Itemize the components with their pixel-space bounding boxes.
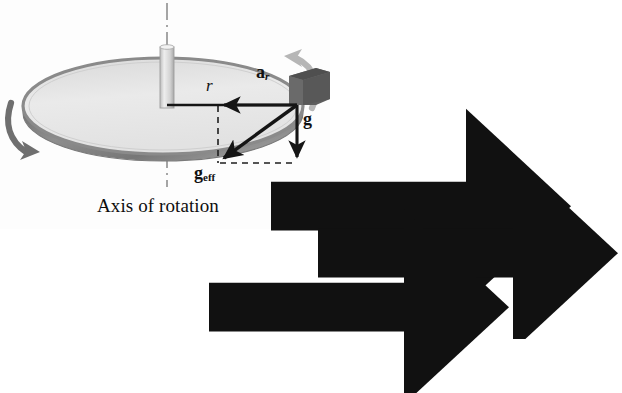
effective-gravity-label: g eff — [194, 164, 215, 183]
radial-acceleration-label: a r — [256, 63, 269, 82]
spindle-axle — [160, 45, 174, 108]
gravity-label: g — [303, 110, 312, 128]
vector-arrow-overbar-icon — [194, 164, 524, 393]
figure-caption: Axis of rotation — [97, 196, 219, 215]
radius-label: r — [206, 77, 213, 94]
